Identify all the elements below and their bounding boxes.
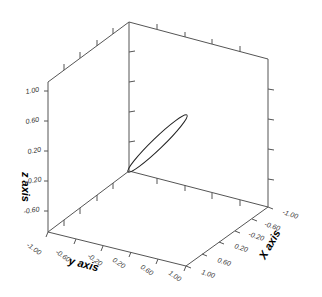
svg-text:0.20: 0.20 [27, 146, 42, 155]
3d-plot: 1.00 0.60 0.20 -0.20 -0.60 z axis -1.00 … [0, 0, 322, 297]
bottom-back-right-edge [129, 171, 268, 207]
svg-text:-1.00: -1.00 [25, 241, 42, 256]
svg-text:0.60: 0.60 [25, 116, 40, 125]
data-series [124, 111, 191, 176]
svg-text:-0.60: -0.60 [23, 205, 40, 215]
top-right-edge [129, 22, 268, 59]
top-left-edge [48, 22, 129, 82]
tick-marks [44, 24, 274, 271]
svg-text:-1.00: -1.00 [282, 208, 299, 220]
x-tick-labels: -1.00 -0.60 -0.20 0.20 0.60 1.00 [201, 208, 299, 279]
bottom-back-left-edge [48, 171, 129, 232]
svg-text:0.60: 0.60 [139, 263, 154, 277]
svg-text:0.20: 0.20 [111, 256, 126, 270]
box-frame [48, 22, 268, 266]
svg-text:1.00: 1.00 [25, 86, 40, 95]
svg-text:0.20: 0.20 [234, 242, 249, 253]
loop-curve [124, 111, 191, 176]
svg-text:-0.20: -0.20 [248, 230, 265, 242]
svg-text:1.00: 1.00 [201, 268, 216, 279]
svg-text:0.60: 0.60 [217, 256, 232, 267]
z-axis-title: z axis [20, 171, 32, 202]
svg-text:1.00: 1.00 [167, 269, 182, 283]
y-tick-labels: -1.00 -0.60 -0.20 0.20 0.60 1.00 [25, 241, 182, 283]
